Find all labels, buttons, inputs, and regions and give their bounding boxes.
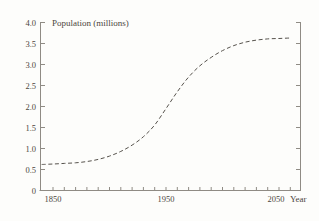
y-tick-label: 2.0 [25, 102, 36, 112]
x-tick-label: 1850 [45, 194, 62, 204]
y-tick-label: 0 [32, 186, 36, 196]
chart-title: Population (millions) [52, 18, 129, 28]
x-tick-label: 1950 [158, 194, 175, 204]
y-tick-label: 3.5 [25, 39, 36, 49]
y-tick-label: 0.5 [25, 165, 36, 175]
y-tick-label: 3.0 [25, 60, 36, 70]
population-curve [42, 38, 291, 165]
y-tick-label: 1.0 [25, 144, 36, 154]
population-growth-chart: 00.51.01.52.02.53.03.54.0185019502050Yea… [0, 0, 319, 221]
x-axis-unit-label: Year [290, 194, 307, 204]
chart-canvas: 00.51.01.52.02.53.03.54.0185019502050Yea… [0, 0, 319, 221]
y-tick-label: 2.5 [25, 81, 36, 91]
y-tick-label: 4.0 [25, 18, 36, 28]
y-tick-label: 1.5 [25, 123, 36, 133]
x-tick-label: 2050 [268, 194, 285, 204]
